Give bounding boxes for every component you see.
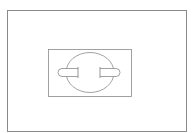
left-pin [58,67,78,78]
right-pin [100,67,120,78]
socket-diagram [0,0,192,133]
